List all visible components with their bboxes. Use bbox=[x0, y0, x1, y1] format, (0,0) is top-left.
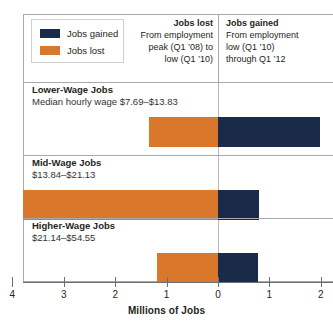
row-separator bbox=[23, 82, 333, 83]
x-axis-tick-up bbox=[64, 277, 65, 282]
x-axis-tick bbox=[64, 282, 65, 287]
x-axis-tick-label: 1 bbox=[157, 289, 177, 300]
row-separator bbox=[23, 155, 333, 156]
bar-track-lower-wage bbox=[24, 117, 333, 147]
legend-label-gained: Jobs gained bbox=[67, 29, 118, 39]
x-axis-tick-up bbox=[167, 277, 168, 282]
header-jobs-lost-line1: From employment bbox=[126, 29, 213, 41]
x-axis-tick bbox=[12, 282, 13, 287]
row-sublabel-lower-wage: Median hourly wage $7.69–$13.83 bbox=[24, 96, 333, 108]
x-axis-tick-label: 1 bbox=[259, 289, 279, 300]
x-axis-tick bbox=[167, 282, 168, 287]
x-axis-tick-label: 3 bbox=[54, 289, 74, 300]
header-jobs-gained-line1: From employment bbox=[226, 29, 326, 41]
header-jobs-lost-title: Jobs lost bbox=[126, 17, 213, 29]
x-axis-tick-label: 2 bbox=[105, 289, 125, 300]
bar-track-higher-wage bbox=[24, 253, 333, 283]
x-axis-title: Millions of Jobs bbox=[0, 305, 333, 316]
header-jobs-gained-line2: low (Q1 ’10) bbox=[226, 41, 326, 53]
row-separator bbox=[23, 218, 333, 219]
header-jobs-gained: Jobs gained From employment low (Q1 ’10)… bbox=[226, 17, 326, 65]
bar-lost-lower-wage bbox=[149, 117, 218, 147]
header-jobs-lost-line3: low (Q1 ’10) bbox=[126, 53, 213, 65]
x-axis-tick-up bbox=[12, 277, 13, 282]
chart-row-mid-wage: Mid-Wage Jobs $13.84–$21.13 bbox=[24, 157, 333, 220]
row-label-mid-wage: Mid-Wage Jobs bbox=[24, 157, 333, 169]
bar-track-mid-wage bbox=[24, 190, 333, 220]
legend-swatch-gained bbox=[40, 29, 60, 38]
header-jobs-gained-line3: through Q1 ’12 bbox=[226, 53, 326, 65]
x-axis-tick-up bbox=[269, 277, 270, 282]
x-axis-tick-up bbox=[321, 277, 322, 282]
x-axis-tick bbox=[218, 282, 219, 287]
x-axis-tick-label: 0 bbox=[208, 289, 228, 300]
row-label-lower-wage: Lower-Wage Jobs bbox=[24, 84, 333, 96]
chart-row-lower-wage: Lower-Wage Jobs Median hourly wage $7.69… bbox=[24, 84, 333, 147]
x-axis-tick-up bbox=[115, 277, 116, 282]
chart-legend: Jobs gained Jobs lost bbox=[31, 19, 124, 63]
bar-lost-mid-wage bbox=[23, 190, 218, 220]
x-axis-tick-up bbox=[218, 277, 219, 282]
x-axis-tick-label: 4 bbox=[2, 289, 22, 300]
x-axis-tick bbox=[321, 282, 322, 287]
x-axis-line bbox=[23, 282, 333, 283]
header-jobs-gained-title: Jobs gained bbox=[226, 17, 326, 29]
legend-swatch-lost bbox=[40, 46, 60, 55]
legend-jobs-lost: Jobs lost bbox=[40, 42, 123, 59]
x-axis-tick-label: 2 bbox=[311, 289, 331, 300]
header-jobs-lost-line2: peak (Q1 ’08) to bbox=[126, 41, 213, 53]
bar-gained-higher-wage bbox=[218, 253, 258, 283]
header-column-divider bbox=[218, 15, 219, 82]
row-sublabel-higher-wage: $21.14–$54.55 bbox=[24, 232, 333, 244]
legend-jobs-gained: Jobs gained bbox=[40, 25, 123, 42]
x-axis-tick bbox=[115, 282, 116, 287]
bar-gained-lower-wage bbox=[218, 117, 320, 147]
header-jobs-lost: Jobs lost From employment peak (Q1 ’08) … bbox=[126, 17, 213, 65]
legend-label-lost: Jobs lost bbox=[67, 46, 105, 56]
row-sublabel-mid-wage: $13.84–$21.13 bbox=[24, 169, 333, 181]
x-axis-tick bbox=[269, 282, 270, 287]
row-label-higher-wage: Higher-Wage Jobs bbox=[24, 220, 333, 232]
chart-row-higher-wage: Higher-Wage Jobs $21.14–$54.55 bbox=[24, 220, 333, 283]
bar-gained-mid-wage bbox=[218, 190, 259, 220]
